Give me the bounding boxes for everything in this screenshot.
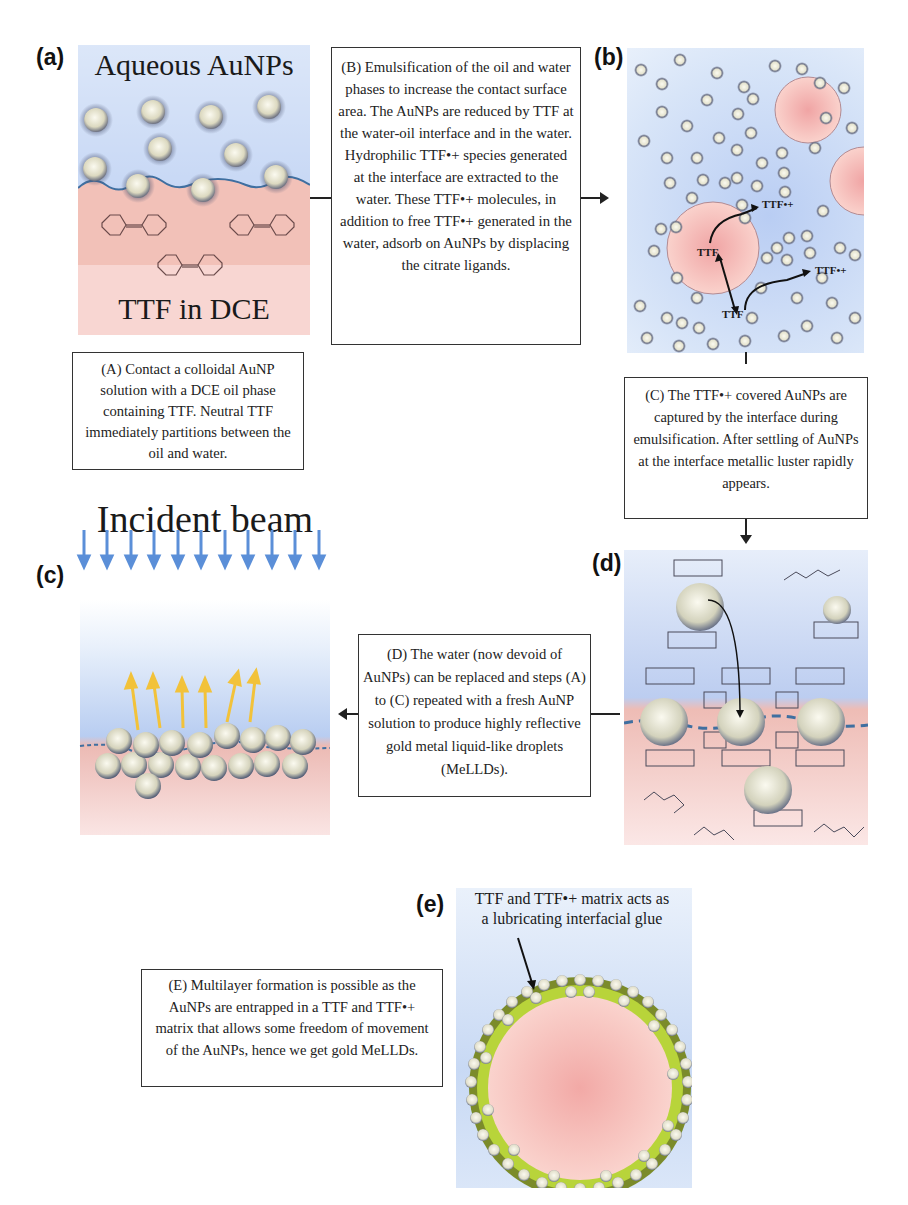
incident-beam-arrows — [79, 530, 324, 567]
panel-label-b: (b) — [594, 44, 623, 71]
panel-label-c: (c) — [36, 562, 64, 589]
step-b-box: (B) Emulsification of the oil and water … — [331, 47, 581, 345]
connector-a-to-b — [310, 197, 332, 199]
panel-e-caption-line2: a lubricating interfacial glue — [452, 910, 692, 928]
annotation-ttf-2: TTF — [722, 308, 743, 320]
annotation-ttf-radical-1: TTF•+ — [762, 198, 794, 210]
arrowhead-down-icon — [740, 535, 752, 544]
arrowhead-left-icon — [338, 708, 347, 720]
connector-panel-b-to-c — [745, 352, 747, 364]
panel-d — [624, 550, 868, 845]
panel-label-d: (d) — [592, 550, 621, 577]
panel-e-illustration — [456, 888, 692, 1188]
step-d-box: (D) The water (now devoid of AuNPs) can … — [358, 634, 591, 797]
panel-c-illustration — [70, 530, 340, 835]
annotation-ttf-radical-2: TTF•+ — [815, 264, 847, 276]
panel-e-caption-line1: TTF and TTF•+ matrix acts as — [452, 890, 692, 908]
panel-label-a: (a) — [36, 44, 64, 71]
arrowhead-right-icon — [600, 192, 609, 204]
annotation-ttf-1: TTF — [697, 246, 718, 258]
step-a-box: (A) Contact a colloidal AuNP solution wi… — [72, 352, 304, 470]
panel-c — [70, 530, 340, 835]
panel-e — [456, 888, 692, 1188]
panel-a-bottom-label: TTF in DCE — [78, 292, 310, 326]
panel-a-top-label: Aqueous AuNPs — [78, 48, 310, 82]
panel-label-e: (e) — [416, 891, 444, 918]
panel-b-illustration — [627, 48, 864, 353]
panel-d-illustration — [624, 550, 868, 845]
step-e-box: (E) Multilayer formation is possible as … — [141, 969, 443, 1087]
step-c-box: (C) The TTF•+ covered AuNPs are captured… — [624, 377, 868, 519]
connector-d-to-d-box — [590, 713, 620, 715]
panel-b: TTF•+ TTF TTF•+ TTF — [627, 48, 864, 353]
